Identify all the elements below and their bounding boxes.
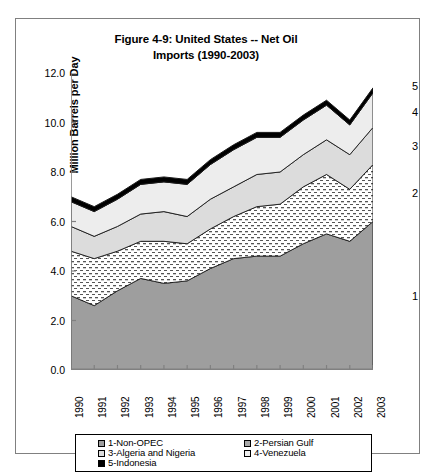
series-end-label: 1 [412,291,418,302]
series-end-label: 5 [412,81,418,92]
series-end-labels: 12345 [412,73,435,373]
y-tick-label: 12.0 [31,68,65,78]
y-axis-tick-labels: 0.02.04.06.08.010.012.0 [16,73,65,370]
x-tick-label: 1990 [75,397,85,418]
legend-label: 5-Indonesia [108,458,157,468]
x-tick-label: 1998 [261,397,271,418]
x-tick-label: 1999 [284,397,294,418]
x-tick-label: 1996 [214,397,224,418]
x-tick-label: 2002 [354,397,364,418]
y-tick-label: 8.0 [31,167,65,177]
x-tick-label: 1994 [168,397,178,418]
y-tick-label: 0.0 [31,365,65,375]
y-tick-label: 6.0 [31,217,65,227]
x-tick-label: 2000 [307,397,317,418]
y-tick-label: 4.0 [31,266,65,276]
x-tick-label: 2001 [331,397,341,418]
legend-swatch [98,450,105,457]
legend-swatch [244,440,251,447]
chart-title: Figure 4-9: United States -- Net Oil Imp… [56,31,356,63]
y-tick-label: 2.0 [31,316,65,326]
y-tick-label: 10.0 [31,118,65,128]
x-tick-label: 1993 [145,397,155,418]
legend-swatch [98,440,105,447]
x-tick-label: 2003 [377,397,387,418]
plot-area [71,73,373,370]
legend-label: 4-Venezuela [254,448,306,458]
x-tick-label: 1992 [121,397,131,418]
legend-swatch [98,460,105,467]
series-end-label: 4 [412,107,418,118]
legend-item[interactable]: 5-Indonesia [98,458,157,468]
x-tick-label: 1991 [98,397,108,418]
series-end-label: 2 [412,188,418,199]
stacked-area-chart [71,73,373,370]
chart-title-line-1: Figure 4-9: United States -- Net Oil [56,31,356,47]
series-end-label: 3 [412,141,418,152]
legend-swatch [244,450,251,457]
chart-legend: 1-Non-OPEC2-Persian Gulf3-Algeria and Ni… [75,434,372,472]
x-axis-tick-labels: 1990199119921993199419951996199719981999… [71,374,373,420]
x-tick-label: 1997 [238,397,248,418]
x-tick-label: 1995 [191,397,201,418]
figure-frame: Figure 4-9: United States -- Net Oil Imp… [15,18,420,454]
legend-item[interactable]: 4-Venezuela [244,448,306,458]
chart-title-line-2: Imports (1990-2003) [56,47,356,63]
area-series-group [71,88,373,370]
